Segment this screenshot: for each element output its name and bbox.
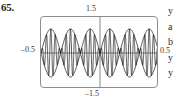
side-text-line: a	[168, 19, 172, 35]
adjacent-text-column: y a b y y	[168, 3, 180, 81]
side-text-line: y	[168, 3, 173, 19]
side-text-line: y	[168, 65, 173, 81]
figure-container: 65. 1.5 –1.5 –0.5 0.5 y a b y y	[0, 0, 180, 102]
side-text-line: b	[168, 34, 173, 50]
y-min-label: –1.5	[85, 89, 99, 98]
exercise-number-label: 65.	[1, 1, 14, 13]
side-text-line: y	[168, 50, 173, 66]
y-max-label: 1.5	[86, 4, 96, 13]
plot-svg	[41, 17, 158, 88]
graph-viewport-frame	[40, 16, 158, 88]
x-min-label: –0.5	[21, 45, 35, 54]
